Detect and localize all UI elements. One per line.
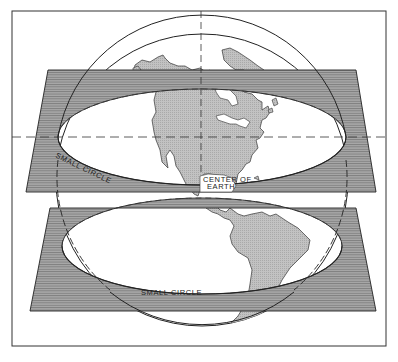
small-circle-diagram: SMALL CIRCLE SMALL CIRCLE CENTER OF EART… <box>0 0 398 362</box>
label-small-circle-lower: SMALL CIRCLE <box>141 288 202 297</box>
label-center-of-earth-2: EARTH <box>207 182 235 191</box>
